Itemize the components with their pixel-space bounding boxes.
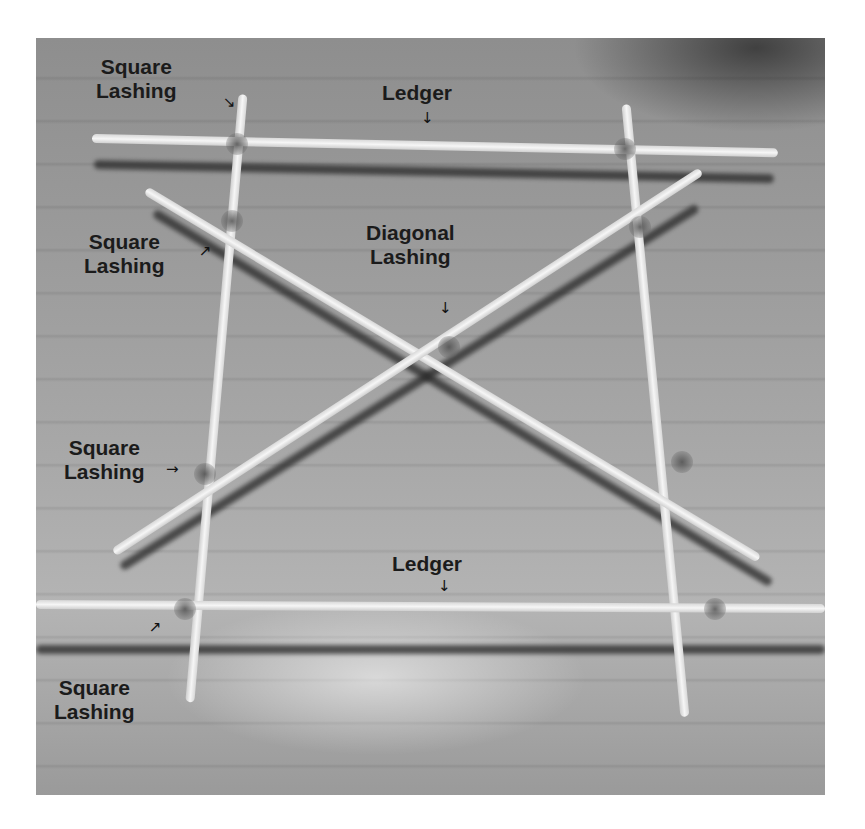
lashing-knot — [226, 133, 248, 155]
lashing-photo: Square Lashing ↘ Ledger ↓ Square Lashing… — [36, 38, 825, 795]
label-line: Ledger — [392, 552, 462, 576]
top-ledger-shadow — [94, 160, 774, 183]
label-square-lashing-upper-left: Square Lashing — [84, 230, 165, 278]
arrow-icon: ↘ — [223, 95, 236, 110]
arrow-icon: ↗ — [199, 244, 212, 259]
label-ledger-top: Ledger — [382, 81, 452, 105]
label-line: Lashing — [64, 460, 145, 484]
arrow-icon: ↓ — [421, 111, 434, 126]
bottom-ledger-shadow — [36, 645, 825, 654]
lashing-knot — [438, 336, 460, 358]
label-line: Lashing — [96, 79, 177, 103]
lashing-knot — [221, 210, 243, 232]
label-diagonal-lashing: Diagonal Lashing — [366, 221, 455, 269]
lashing-knot — [704, 598, 726, 620]
label-line: Square — [54, 676, 135, 700]
label-line: Lashing — [54, 700, 135, 724]
label-square-lashing-bottom-left: Square Lashing — [54, 676, 135, 724]
label-line: Ledger — [382, 81, 452, 105]
top-ledger-stick — [92, 134, 778, 157]
arrow-icon: ↓ — [438, 579, 451, 594]
label-line: Square — [64, 436, 145, 460]
label-line: Square — [96, 55, 177, 79]
label-line: Diagonal — [366, 221, 455, 245]
lashing-knot — [629, 216, 651, 238]
arrow-icon: ↗ — [149, 620, 162, 635]
lashing-knot — [174, 598, 196, 620]
label-line: Square — [84, 230, 165, 254]
lashing-knot — [671, 451, 693, 473]
label-square-lashing-top-left: Square Lashing — [96, 55, 177, 103]
label-line: Lashing — [366, 245, 455, 269]
lashing-knot — [194, 463, 216, 485]
diagonal-shadow-1 — [152, 209, 774, 588]
label-line: Lashing — [84, 254, 165, 278]
arrow-icon: → — [166, 462, 179, 477]
arrow-icon: ↓ — [439, 301, 452, 316]
label-square-lashing-middle-left: Square Lashing — [64, 436, 145, 484]
label-ledger-bottom: Ledger — [392, 552, 462, 576]
lashing-knot — [614, 138, 636, 160]
